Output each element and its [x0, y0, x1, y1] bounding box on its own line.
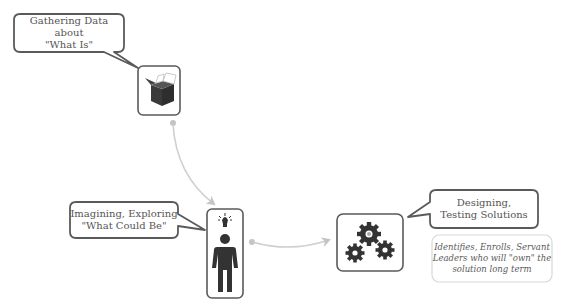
connector-gathering-to-imagining: [173, 124, 214, 204]
callout-designing-text: Designing, Testing Solutions: [430, 190, 538, 228]
note-line: solution long term: [452, 264, 531, 275]
connector-imagining-to-designing: [253, 240, 329, 247]
designing-note-text: Identifies, Enrolls, Servant Leaders who…: [432, 235, 552, 282]
callout-line: Gathering Data about: [14, 15, 124, 39]
callout-line: "What Is": [45, 39, 93, 51]
note-line: Leaders who will "own" the: [433, 253, 551, 264]
callout-line: Imagining, Exploring: [70, 208, 177, 220]
callout-line: Testing Solutions: [440, 209, 528, 221]
callout-imagining-text: Imagining, Exploring "What Could Be": [70, 202, 178, 238]
callout-line: Designing,: [457, 197, 511, 209]
note-line: Identifies, Enrolls, Servant: [434, 242, 550, 253]
callout-line: "What Could Be": [81, 220, 166, 232]
callout-gathering-text: Gathering Data about "What Is": [14, 14, 124, 52]
